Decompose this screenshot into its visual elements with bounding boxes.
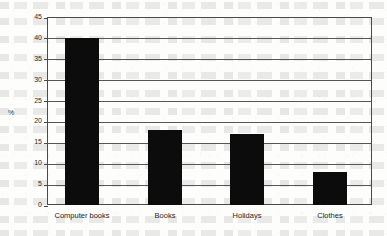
- x-axis-tick-label: Computer books: [54, 211, 109, 220]
- x-axis-tick-label: Books: [155, 211, 176, 220]
- x-axis-tick-label: Clothes: [317, 211, 342, 220]
- chart-screenshot: % 454035302520151050 Computer booksBooks…: [0, 0, 387, 236]
- x-axis-tick-labels: Computer booksBooksHolidaysClothes: [0, 0, 387, 236]
- x-axis-tick-label: Holidays: [233, 211, 262, 220]
